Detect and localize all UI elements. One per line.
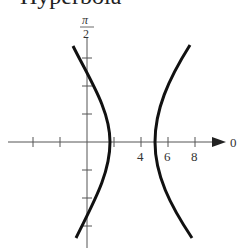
svg-text:6: 6 <box>164 149 171 164</box>
svg-text:4: 4 <box>137 149 144 164</box>
x-tick-labels: 4 6 8 <box>137 149 198 164</box>
polar-axis-label: 0 <box>230 135 237 150</box>
svg-text:8: 8 <box>191 149 198 164</box>
pi-label: π <box>82 13 89 27</box>
polar-graph: 0 π 2 4 6 8 <box>0 0 242 251</box>
two-label: 2 <box>83 27 89 41</box>
arrow-icon <box>212 137 226 147</box>
